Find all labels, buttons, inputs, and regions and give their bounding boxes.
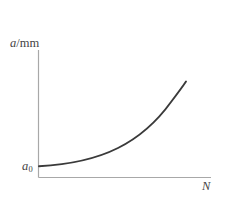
plot-canvas — [0, 0, 227, 201]
x-axis-label: N — [202, 180, 210, 193]
y-axis-label: a/mm — [10, 37, 39, 50]
y-axis-label-unit: /mm — [16, 36, 39, 50]
crack-growth-figure: a/mm N a0 — [0, 0, 227, 201]
crack-growth-curve — [39, 82, 186, 167]
origin-value-label: a0 — [22, 160, 33, 173]
origin-symbol: a — [22, 159, 28, 173]
origin-subscript: 0 — [29, 164, 33, 174]
